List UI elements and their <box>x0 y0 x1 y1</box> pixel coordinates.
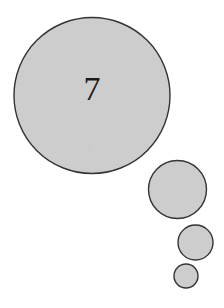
circle-3[interactable] <box>178 225 213 260</box>
circle-item[interactable] <box>149 161 207 219</box>
circles-figure: 7 <box>0 0 224 308</box>
speck-group <box>87 149 89 151</box>
circle-item[interactable] <box>174 264 198 288</box>
circle-2[interactable] <box>149 161 207 219</box>
circle-1-label: 7 <box>84 70 101 107</box>
speck-1 <box>87 149 89 151</box>
circle-4[interactable] <box>174 264 198 288</box>
circle-item[interactable]: 7 <box>14 18 170 174</box>
circle-item[interactable] <box>178 225 213 260</box>
figure-canvas: 7 <box>0 0 224 308</box>
